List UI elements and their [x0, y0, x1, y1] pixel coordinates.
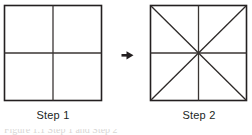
arrow-right-icon	[122, 51, 134, 59]
arrow-head	[127, 51, 134, 59]
step-1-figure	[5, 6, 102, 101]
clipped-caption: Figure 1.1 Step 1 and Step 2	[0, 129, 252, 135]
diagram-svg	[0, 0, 252, 106]
clipped-caption-text: Figure 1.1 Step 1 and Step 2	[4, 129, 118, 135]
step-1-label: Step 1	[0, 108, 106, 122]
diagram-stage	[0, 0, 252, 106]
step-2-figure	[151, 6, 247, 101]
figure-canvas: Step 1 Step 2 Figure 1.1 Step 1 and Step…	[0, 0, 252, 135]
step-2-label: Step 2	[146, 108, 252, 122]
